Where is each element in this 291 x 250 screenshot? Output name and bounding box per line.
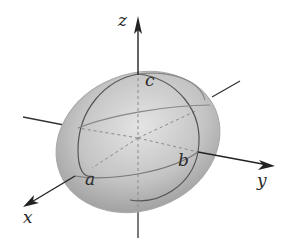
ellipsoid-surface: [35, 47, 242, 236]
y-arrow-icon: [258, 160, 275, 170]
b-intercept-label: b: [178, 150, 189, 170]
a-intercept-label: a: [85, 169, 95, 189]
z-axis-label: z: [117, 10, 128, 30]
c-intercept-label: c: [145, 70, 155, 90]
y-axis-label: y: [256, 170, 267, 190]
x-axis: [30, 176, 75, 203]
back-axis-left: [23, 117, 64, 125]
back-axis-right: [212, 81, 240, 97]
x-axis-label: x: [23, 207, 33, 227]
ellipsoid-diagram: z c b y a x: [0, 0, 291, 250]
x-arrow-icon: [23, 195, 39, 207]
